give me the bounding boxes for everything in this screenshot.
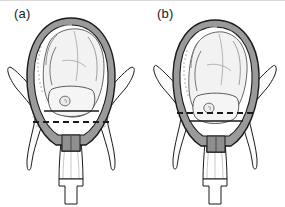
- perineum-outline: [59, 179, 83, 204]
- perineum-outline: [203, 179, 227, 204]
- panel-b: (b): [143, 1, 285, 207]
- fetal-ear: [204, 103, 214, 113]
- panel-b-illustration: [143, 1, 285, 207]
- fetal-head: [48, 86, 94, 116]
- fetal-head: [193, 93, 239, 123]
- panel-a: (a): [0, 1, 142, 207]
- panel-a-illustration: [0, 1, 142, 207]
- figure-root: (a): [0, 0, 285, 207]
- cervix: [207, 136, 225, 152]
- fetal-ear: [60, 96, 70, 106]
- perineum: [203, 179, 227, 204]
- perineum: [59, 179, 83, 204]
- cervix: [62, 135, 80, 151]
